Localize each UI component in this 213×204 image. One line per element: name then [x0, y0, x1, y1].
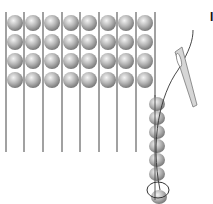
needle-and-thread [156, 30, 197, 190]
step-label: I [210, 10, 213, 24]
beading-illustration [0, 0, 213, 204]
bead-strand [147, 95, 169, 204]
